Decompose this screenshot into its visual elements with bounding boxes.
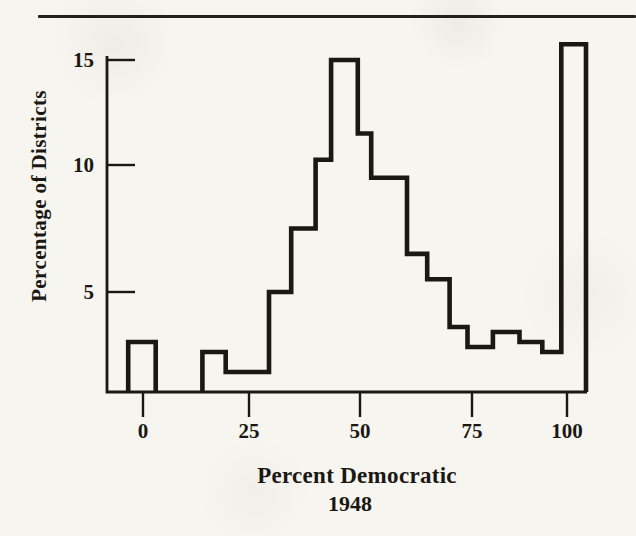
y-tick-label-10: 10: [34, 153, 94, 177]
x-tick-label-100: 100: [535, 420, 599, 442]
y-axis-label: Percentage of Districts: [27, 90, 52, 302]
histogram-outline: [128, 44, 586, 392]
x-axis-label: Percent Democratic: [257, 463, 457, 489]
histogram-plot: [0, 0, 636, 536]
x-tick-label-25: 25: [217, 420, 281, 442]
y-tick-label-15: 15: [34, 48, 94, 72]
x-tick-label-0: 0: [111, 420, 175, 442]
x-tick-label-50: 50: [328, 420, 392, 442]
axis-line: [107, 56, 587, 392]
book-figure-page: Percentage of Districts 510150255075100 …: [0, 0, 636, 536]
y-tick-label-5: 5: [34, 280, 94, 304]
x-tick-label-75: 75: [440, 420, 504, 442]
x-axis-label-year: 1948: [328, 491, 372, 517]
